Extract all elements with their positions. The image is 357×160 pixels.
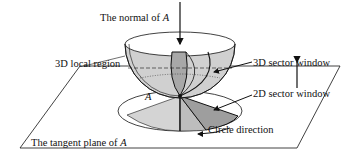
- sector-3d-label: 3D sector window: [253, 57, 330, 68]
- sector-2d-label: 2D sector window: [253, 88, 330, 99]
- circle-direction-label: Circle direction: [208, 124, 274, 135]
- local-region-label: 3D local region: [55, 58, 121, 69]
- normal-label: The normal of A: [100, 12, 170, 23]
- point-a-label: A: [144, 91, 152, 102]
- tangent-plane-label: The tangent plane of A: [31, 137, 127, 148]
- diagram-canvas: The normal of A 3D local region 3D secto…: [0, 0, 357, 160]
- point-a: [178, 94, 182, 98]
